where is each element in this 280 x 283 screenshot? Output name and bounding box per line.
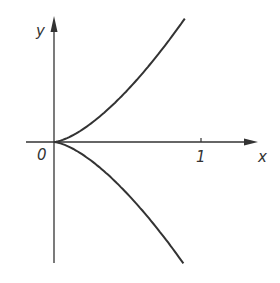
origin-label: 0	[37, 146, 47, 164]
y-axis-arrow-icon	[51, 16, 58, 32]
cusp-curve-diagram: y x 0 1	[0, 0, 280, 283]
x-axis-arrow-icon	[244, 139, 258, 146]
upper-curve-branch	[54, 19, 185, 142]
lower-curve-branch	[54, 142, 183, 263]
x-axis-label: x	[257, 148, 267, 166]
y-axis-label: y	[35, 22, 46, 40]
x-tick-label-1: 1	[196, 148, 206, 166]
